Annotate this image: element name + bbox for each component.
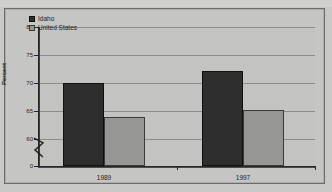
legend-item-united-states: United States: [29, 24, 77, 31]
ytick-label-65: 65: [26, 108, 33, 114]
chart-outer-frame: 80 75 70 65 60 0 Percent: [4, 8, 325, 184]
bar-idaho-1997: [202, 71, 243, 166]
legend-swatch-idaho: [29, 16, 35, 22]
y-axis-title: Percent: [1, 63, 7, 85]
gridline-80: [39, 27, 315, 28]
xtick-divider: [177, 166, 178, 170]
ytick-label-0: 0: [30, 163, 33, 169]
bar-united-states-1997: [243, 110, 284, 166]
gridline-75: [39, 55, 315, 56]
bar-idaho-1989: [63, 83, 104, 166]
xtick-end: [315, 166, 316, 170]
chart-page: 80 75 70 65 60 0 Percent: [0, 0, 332, 192]
legend-swatch-united-states: [29, 25, 35, 31]
xtick-label-1997: 1997: [203, 174, 283, 181]
bar-united-states-1989: [104, 117, 145, 166]
chart-legend: Idaho United States: [29, 15, 77, 31]
top-header-strip: [0, 0, 332, 7]
legend-label-united-states: United States: [38, 24, 77, 31]
ytick-label-70: 70: [26, 80, 33, 86]
axis-break-zigzag: [31, 137, 47, 159]
xtick-label-1989: 1989: [64, 174, 144, 181]
legend-label-idaho: Idaho: [38, 15, 54, 22]
legend-item-idaho: Idaho: [29, 15, 77, 22]
ytick-label-75: 75: [26, 52, 33, 58]
